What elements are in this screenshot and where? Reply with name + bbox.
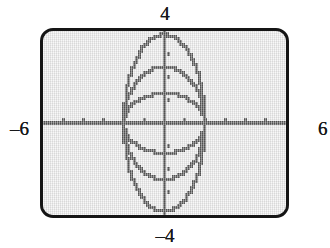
- y-min-label: –4: [0, 226, 330, 245]
- y-tick: [167, 144, 170, 147]
- y-tick: [167, 52, 170, 55]
- y-tick: [167, 75, 170, 78]
- y-tick: [167, 167, 170, 170]
- y-tick: [167, 98, 170, 101]
- x-tick: [102, 118, 105, 121]
- x-tick: [82, 118, 85, 121]
- x-max-label: 6: [318, 119, 328, 138]
- screenshot-stage: 4 –4 –6 6: [0, 0, 330, 248]
- x-tick: [62, 118, 65, 121]
- x-tick: [143, 118, 146, 121]
- x-min-label: –6: [10, 119, 29, 138]
- x-tick: [244, 118, 247, 121]
- graph-plot: [43, 31, 286, 215]
- x-tick: [183, 118, 186, 121]
- y-axis-line: [163, 31, 167, 215]
- y-tick: [167, 190, 170, 193]
- y-max-label: 4: [0, 4, 330, 23]
- x-tick: [264, 118, 267, 121]
- x-tick: [224, 118, 227, 121]
- calculator-screen: [40, 28, 289, 218]
- axes-layer: [43, 31, 286, 215]
